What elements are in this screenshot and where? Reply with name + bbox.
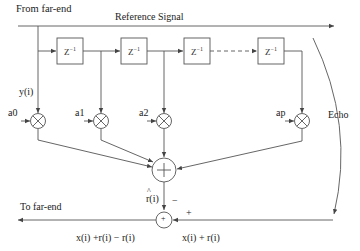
input-signal-label: y(i) bbox=[19, 87, 33, 97]
ap-to-adder bbox=[177, 129, 302, 169]
from-far-end-label: From far-end bbox=[16, 4, 71, 15]
estimate-label: r(i) bbox=[146, 194, 159, 204]
multiplier-a0 bbox=[31, 114, 46, 129]
delay-block-1-label: Z−1 bbox=[57, 46, 83, 57]
multiplier-a1 bbox=[94, 114, 109, 129]
delay-block-4-label: Z−1 bbox=[258, 46, 284, 57]
received-signal-label: x(i) + r(i) bbox=[182, 233, 220, 243]
delay-block-2-label: Z−1 bbox=[121, 46, 147, 57]
coef-a2-label: a2 bbox=[139, 108, 148, 118]
plus-sign: + bbox=[186, 208, 192, 218]
echo-canceller-diagram bbox=[0, 0, 360, 251]
subtractor-plus-symbol: + bbox=[161, 215, 166, 223]
tap-p-line bbox=[284, 51, 302, 113]
coef-a1-label: a1 bbox=[75, 108, 84, 118]
minus-sign: − bbox=[172, 196, 178, 206]
echo-label: Echo bbox=[328, 110, 349, 120]
output-signal-label: x(i) +r(i) − r(i) bbox=[76, 233, 135, 243]
reference-signal-label: Reference Signal bbox=[115, 12, 184, 22]
coef-ap-label: ap bbox=[276, 108, 285, 118]
multiplier-ap bbox=[295, 114, 310, 129]
delay-block-3-label: Z−1 bbox=[184, 46, 210, 57]
a0-to-adder bbox=[38, 129, 152, 167]
echo-path-curve bbox=[313, 38, 341, 214]
summing-junction bbox=[152, 158, 176, 182]
multiplier-a2 bbox=[157, 114, 172, 129]
to-far-end-label: To far-end bbox=[20, 202, 62, 212]
coef-a0-label: a0 bbox=[8, 108, 17, 118]
